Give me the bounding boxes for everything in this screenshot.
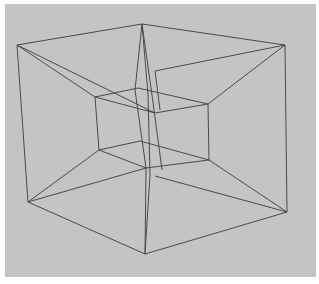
outer-bottom-edges — [28, 202, 287, 254]
outer-top-edges — [17, 24, 285, 45]
slab-edge-5 — [148, 94, 150, 175]
connector-tl-back — [17, 45, 155, 113]
connector-tl — [17, 45, 95, 97]
tesseract-wireframe — [0, 0, 319, 284]
slab-edge-1 — [135, 24, 142, 90]
connector-bl — [28, 150, 99, 202]
slab-edge-6 — [152, 95, 162, 170]
connector-br — [209, 160, 287, 212]
outer-right-vertical — [285, 45, 287, 212]
inner-left-vertical — [95, 97, 99, 150]
slab-edge-4 — [135, 90, 146, 168]
inner-right-vertical — [208, 104, 209, 160]
inner-bottom-face — [99, 141, 209, 168]
connector-bl-back — [28, 168, 146, 202]
outer-left-vertical — [17, 45, 28, 202]
connector-tr-back — [155, 45, 285, 71]
connector-br-back — [155, 176, 287, 212]
slab-edge-9 — [155, 71, 160, 110]
connector-tr — [208, 45, 285, 104]
